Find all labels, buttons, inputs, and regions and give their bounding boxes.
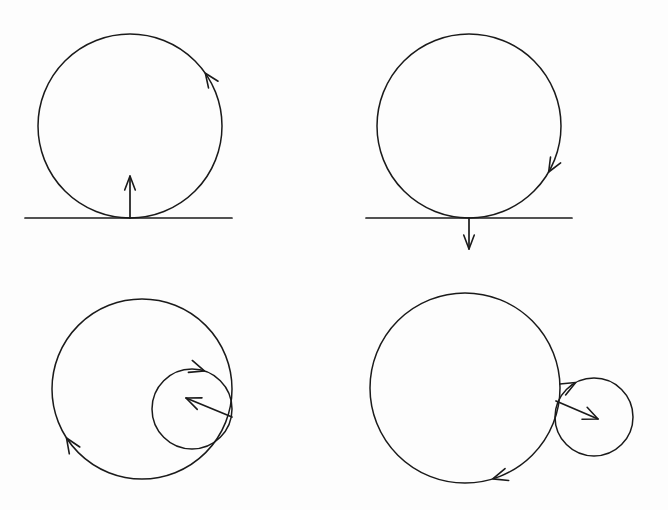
top-right-velocity-arrowhead [464,235,475,249]
figure-canvas [0,0,668,510]
panel-top-left [25,34,232,218]
panel-bottom-right [370,293,633,483]
bottom-right-large-circle [370,293,560,483]
panel-top-right [366,34,572,249]
top-right-rolling-circle [377,34,561,218]
panel-bottom-left [52,299,232,479]
diagram-svg [0,0,668,510]
bottom-left-small-circle [152,369,232,449]
